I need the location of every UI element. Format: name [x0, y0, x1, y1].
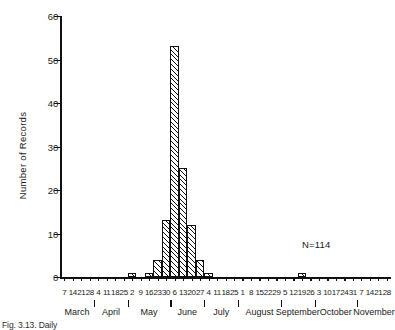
y-tick-label: 40	[18, 98, 58, 109]
x-tick-label: 20	[187, 288, 195, 297]
y-tick-label: 60	[18, 11, 58, 22]
y-tick-label: 10	[18, 228, 58, 239]
histogram-bar	[170, 46, 178, 277]
x-tick	[98, 277, 99, 281]
x-tick	[378, 277, 379, 281]
month-label: October	[320, 307, 352, 317]
x-tick	[310, 277, 311, 281]
y-axis-line	[60, 16, 62, 277]
x-tick-label: 14	[366, 288, 374, 297]
x-tick	[183, 277, 184, 281]
x-tick	[268, 277, 269, 281]
histogram-bar	[196, 260, 204, 277]
month-label: April	[102, 307, 120, 317]
x-tick	[285, 277, 286, 281]
x-tick	[344, 277, 345, 281]
month-separator	[128, 300, 129, 307]
x-tick	[124, 277, 125, 281]
y-axis-title: Number of Records	[17, 96, 28, 216]
x-tick-label: 12	[289, 288, 297, 297]
month-label: March	[64, 307, 89, 317]
x-tick-label: 18	[111, 288, 119, 297]
month-separator	[281, 300, 282, 307]
x-tick	[226, 277, 227, 281]
histogram-bar	[204, 273, 212, 277]
x-tick-label: 15	[255, 288, 263, 297]
histogram-bar	[187, 225, 195, 277]
x-tick-label: 28	[383, 288, 391, 297]
x-tick-label: 22	[264, 288, 272, 297]
x-tick-label: 21	[374, 288, 382, 297]
x-tick-label: 5	[283, 288, 287, 297]
month-label: July	[213, 307, 229, 317]
x-tick-label: 17	[332, 288, 340, 297]
x-tick	[217, 277, 218, 281]
y-tick-label: 50	[18, 54, 58, 65]
histogram-bar	[153, 260, 161, 277]
x-tick	[81, 277, 82, 281]
x-tick-label: 24	[340, 288, 348, 297]
x-tick-label: 4	[96, 288, 100, 297]
x-tick-label: 28	[86, 288, 94, 297]
month-label: August	[245, 307, 273, 317]
x-tick	[259, 277, 260, 281]
x-tick	[302, 277, 303, 281]
x-tick-label: 11	[103, 288, 111, 297]
x-tick-label: 7	[62, 288, 66, 297]
x-tick-label: 7	[359, 288, 363, 297]
x-tick	[387, 277, 388, 281]
x-tick-label: 2	[130, 288, 134, 297]
x-tick	[73, 277, 74, 281]
x-tick-label: 26	[306, 288, 314, 297]
histogram-bar	[145, 273, 153, 277]
x-tick-label: 13	[179, 288, 187, 297]
histogram-bar	[179, 168, 187, 277]
x-tick-label: 25	[120, 288, 128, 297]
x-tick-label: 1	[240, 288, 244, 297]
x-tick-label: 18	[221, 288, 229, 297]
month-label: June	[178, 307, 198, 317]
month-separator	[170, 300, 171, 307]
histogram-bar	[162, 220, 170, 277]
y-tick-label: 20	[18, 185, 58, 196]
x-tick	[200, 277, 201, 281]
y-tick-label: 30	[18, 141, 58, 152]
x-tick	[327, 277, 328, 281]
x-tick	[251, 277, 252, 281]
x-tick	[64, 277, 65, 281]
x-tick-label: 4	[206, 288, 210, 297]
x-tick-label: 3	[317, 288, 321, 297]
x-tick	[361, 277, 362, 281]
month-label: November	[353, 307, 395, 317]
month-label: May	[141, 307, 158, 317]
x-tick	[192, 277, 193, 281]
x-tick-label: 21	[77, 288, 85, 297]
x-tick-label: 25	[230, 288, 238, 297]
x-tick-label: 29	[272, 288, 280, 297]
x-tick-label: 6	[173, 288, 177, 297]
x-tick	[234, 277, 235, 281]
x-tick	[242, 277, 243, 281]
x-tick	[132, 277, 133, 281]
x-tick-label: 9	[139, 288, 143, 297]
x-tick-label: 8	[249, 288, 253, 297]
month-separator	[357, 300, 358, 307]
x-tick-label: 31	[349, 288, 357, 297]
y-tick-label: 0	[18, 272, 58, 283]
month-separator	[204, 300, 205, 307]
x-tick	[276, 277, 277, 281]
x-tick	[166, 277, 167, 281]
x-tick	[336, 277, 337, 281]
x-tick	[175, 277, 176, 281]
x-tick	[209, 277, 210, 281]
histogram-bar	[298, 273, 306, 277]
month-separator	[94, 300, 95, 307]
month-label: September	[276, 307, 320, 317]
histogram-bar	[128, 273, 136, 277]
x-tick	[319, 277, 320, 281]
x-tick-label: 23	[154, 288, 162, 297]
x-tick	[141, 277, 142, 281]
x-tick	[115, 277, 116, 281]
x-tick	[90, 277, 91, 281]
x-tick-label: 30	[162, 288, 170, 297]
